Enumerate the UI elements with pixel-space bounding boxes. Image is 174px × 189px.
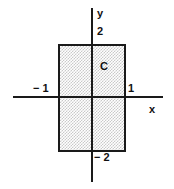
x-axis-label: x [149,104,155,115]
y-tick-label-negative-2: − 2 [94,152,110,163]
x-axis-line [13,96,163,98]
y-axis-label: y [97,8,103,19]
x-tick-label-negative-1: − 1 [33,83,49,94]
x-tick-label-1: 1 [128,83,134,94]
y-axis-line [91,8,93,182]
region-label-c: C [100,61,108,72]
y-tick-label-2: 2 [97,26,103,37]
coordinate-plane-figure: y 2 C − 1 1 x − 2 [0,0,174,189]
